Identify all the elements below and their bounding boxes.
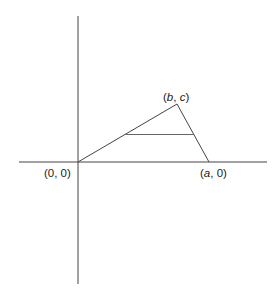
triangle-side-origin-to-bc: [78, 104, 177, 162]
coordinate-diagram: (0, 0) (a, 0) (b, c): [0, 0, 279, 301]
label-a-0: (a, 0): [200, 167, 227, 179]
label-b-c: (b, c): [163, 91, 189, 103]
triangle-side-bc-to-a: [177, 104, 209, 162]
label-origin: (0, 0): [44, 167, 71, 179]
